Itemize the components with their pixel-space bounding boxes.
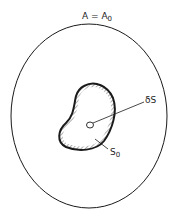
inner-region-label-text: S: [110, 147, 116, 157]
outer-region-label-subscript: 0: [108, 15, 112, 23]
inner-region-label-subscript: 0: [116, 151, 120, 159]
small-element-label: δS: [145, 96, 156, 105]
outer-region-label-text: A = A: [82, 11, 108, 21]
small-element-circle: [87, 122, 94, 128]
inner-region-label: S0: [110, 148, 120, 157]
outer-region-label: A = A0: [82, 12, 112, 21]
small-element-leader: [93, 102, 144, 123]
hatched-boundary-layer: [59, 84, 115, 150]
diagram-canvas: A = A0 δS S0: [0, 0, 174, 217]
diagram-figure: [0, 0, 174, 217]
outer-region-boundary: [11, 24, 167, 208]
